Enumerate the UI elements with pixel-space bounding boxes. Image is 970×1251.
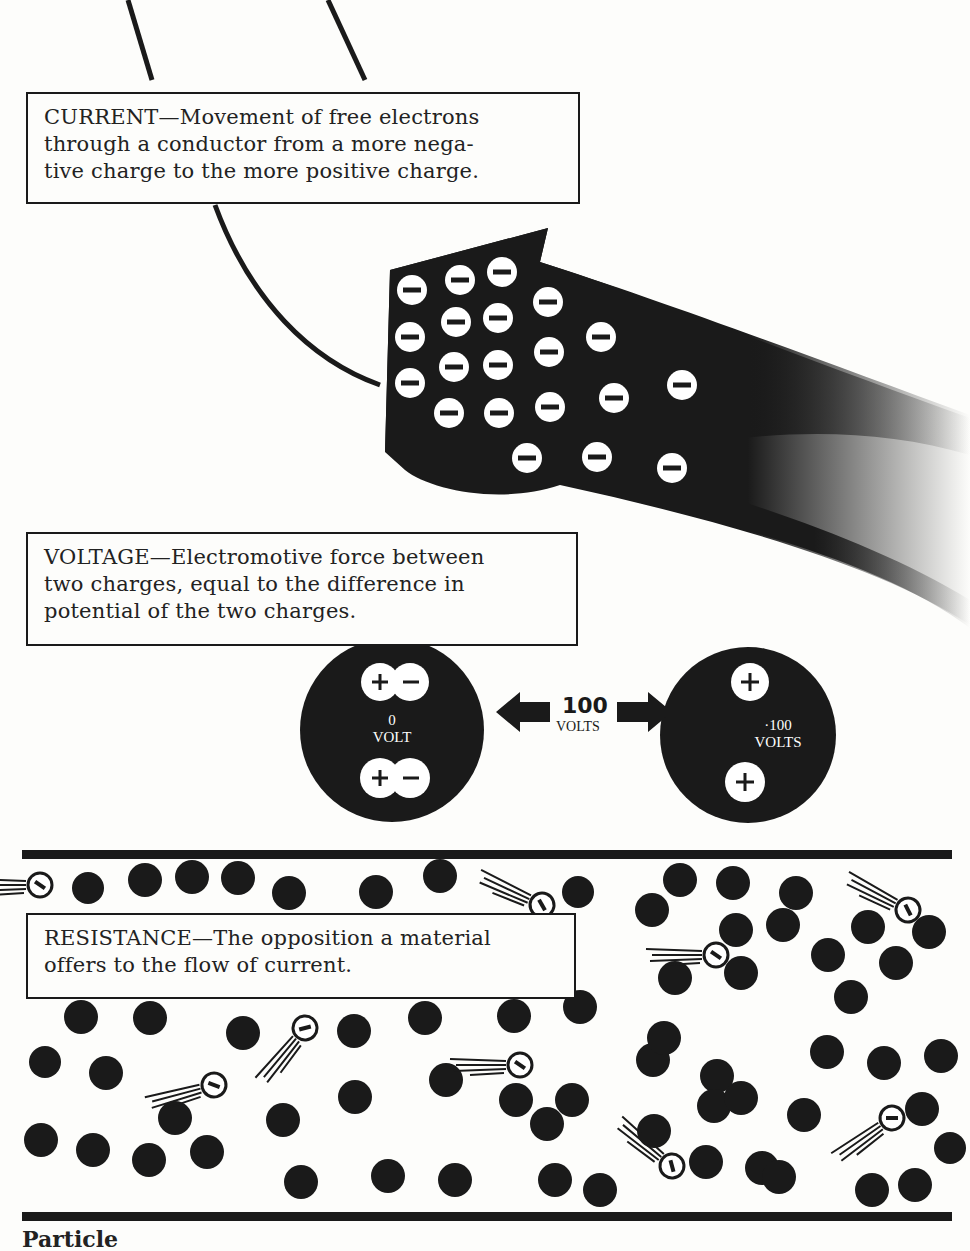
current-definition-line-3: tive charge to the more positive charge. — [44, 158, 562, 185]
current-definition-line-1: CURRENT—Movement of free electrons — [44, 104, 562, 131]
potential-difference-unit: VOLTS — [556, 719, 600, 735]
footer-caption: Particle — [22, 1226, 118, 1251]
resistance-definition-box: RESISTANCE—The opposition a material off… — [26, 913, 576, 999]
voltage-term: VOLTAGE — [44, 545, 150, 569]
hundred-volts-label: ·100 VOLTS — [738, 717, 818, 751]
atoms — [24, 859, 966, 1207]
current-definition-box: CURRENT—Movement of free electrons throu… — [26, 92, 580, 204]
resistance-term: RESISTANCE — [44, 926, 192, 950]
current-definition-line-2: through a conductor from a more nega- — [44, 131, 562, 158]
potential-difference-value: 100 — [562, 693, 608, 718]
voltage-definition-line-1: VOLTAGE—Electromotive force between — [44, 544, 560, 571]
voltage-definition-line-2: two charges, equal to the difference in — [44, 571, 560, 598]
voltage-definition-box: VOLTAGE—Electromotive force between two … — [26, 532, 578, 646]
voltage-definition-line-3: potential of the two charges. — [44, 598, 560, 625]
current-term: CURRENT — [44, 105, 159, 129]
resistance-definition-line-1: RESISTANCE—The opposition a material — [44, 925, 558, 952]
resistance-definition-line-2: offers to the flow of current. — [44, 952, 558, 979]
zero-volt-label: 0 VOLT — [352, 712, 432, 746]
